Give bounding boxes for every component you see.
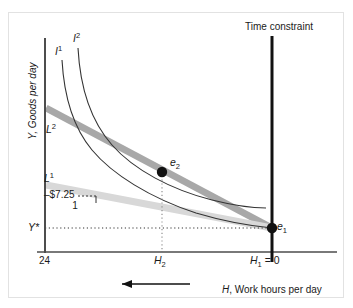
budget-line-label-l2: L2 bbox=[46, 124, 56, 135]
point-label-e1: e1 bbox=[277, 221, 287, 232]
point-label-e2: e2 bbox=[170, 157, 180, 168]
x-axis-title: H, Work hours per day bbox=[222, 285, 322, 295]
curve-label-i2: I2 bbox=[73, 33, 80, 44]
wage-slope-annotation: –$7.25 1 bbox=[44, 190, 97, 211]
time-constraint-label: Time constraint bbox=[245, 22, 313, 32]
figure-container: Y, Goods per day H, Work hours per day T… bbox=[0, 0, 353, 308]
indifference-curve-i2 bbox=[78, 48, 266, 208]
plot-area bbox=[0, 0, 353, 308]
x-tick-24: 24 bbox=[39, 256, 50, 266]
point-e2 bbox=[157, 167, 167, 177]
y-tick-ystar: Y* bbox=[28, 222, 39, 233]
y-axis-title: Y, Goods per day bbox=[28, 46, 38, 156]
x-tick-h1: H1 = 0 bbox=[250, 255, 280, 266]
curve-label-i1: I1 bbox=[55, 46, 62, 57]
budget-line-label-l1: L1 bbox=[44, 173, 54, 184]
leftward-arrow-icon bbox=[122, 280, 190, 288]
point-e1 bbox=[267, 223, 277, 233]
x-tick-h2: H2 bbox=[154, 255, 166, 266]
